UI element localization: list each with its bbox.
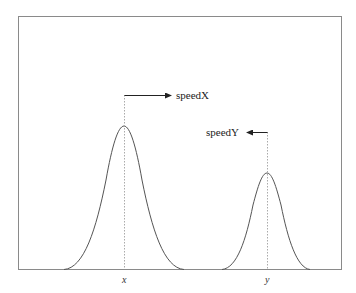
speedx-label: speedX	[176, 89, 209, 101]
peak-y: speedY y	[206, 126, 310, 285]
plot-frame	[19, 17, 342, 270]
diagram-canvas: speedX x speedY y	[0, 0, 356, 293]
axis-label-y: y	[264, 274, 270, 285]
peak-x: speedX x	[64, 89, 209, 285]
speedy-label: speedY	[206, 126, 239, 138]
gaussian-curve-y	[222, 173, 310, 270]
axis-label-x: x	[121, 274, 127, 285]
